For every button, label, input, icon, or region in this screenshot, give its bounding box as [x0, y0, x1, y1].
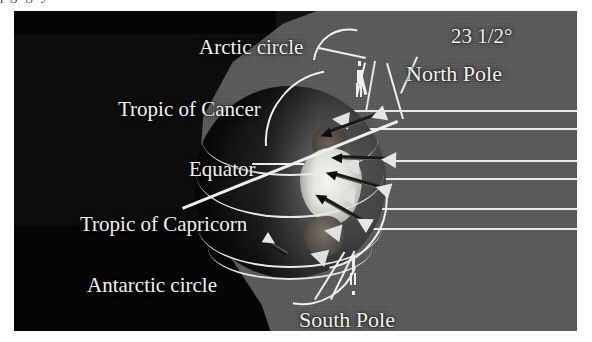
chevron-capricorn [323, 222, 343, 243]
label-north-pole: North Pole [406, 61, 502, 87]
north-pole-marker [354, 61, 364, 101]
label-tropic-of-cancer: Tropic of Cancer [118, 97, 261, 122]
cutoff-caption-text: pg g y [0, 0, 592, 3]
dart-head-icon [331, 153, 342, 163]
diagram-canvas: Arctic circleNorth Pole23 1/2°Tropic of … [14, 11, 577, 331]
chevron-equator [337, 186, 355, 205]
dart-fletching-icon [381, 152, 397, 169]
label-arctic-circle: Arctic circle [199, 35, 303, 60]
label-angle: 23 1/2° [451, 24, 512, 49]
figure-page: pg g y [0, 0, 592, 342]
label-tropic-of-capricorn: Tropic of Capricorn [80, 212, 247, 237]
south-pole-marker [348, 255, 358, 299]
label-south-pole: South Pole [299, 307, 395, 331]
label-equator: Equator [189, 157, 255, 182]
label-antarctic-circle: Antarctic circle [87, 273, 217, 298]
